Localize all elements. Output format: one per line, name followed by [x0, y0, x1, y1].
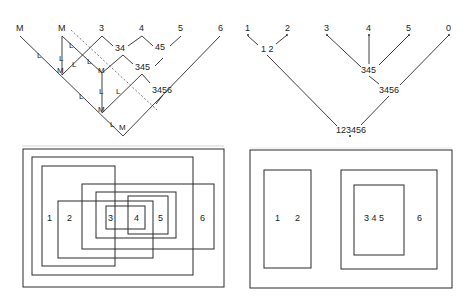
tree-edge	[361, 96, 389, 125]
edge-label: L	[116, 87, 121, 96]
set-box	[42, 166, 115, 266]
tree-edge	[170, 36, 181, 46]
edge-label: L	[37, 51, 42, 60]
leaf-label: 1	[245, 23, 250, 33]
edge-label: L	[99, 87, 104, 96]
right-venn: 1 2 3 4 5 6	[250, 150, 452, 288]
set-label: 1	[275, 213, 280, 223]
diagram-canvas: M M 3 4 5 6 34 45 345 3456 L L L L L L L…	[0, 0, 475, 305]
tree-edge	[102, 36, 113, 46]
set-label: 1	[47, 213, 52, 223]
tree-edge	[400, 35, 449, 85]
tree-edge	[369, 76, 379, 84]
right-tree: 1 2 3 4 5 0 1 2 345 3456 123456	[245, 23, 451, 137]
tree-edge	[155, 58, 163, 66]
leaf-label: M	[58, 23, 66, 33]
edge-label: L	[69, 41, 74, 50]
left-venn: 1 2 3 4 5 6	[23, 149, 224, 287]
set-label: 5	[158, 213, 163, 223]
leaf-label: 4	[139, 23, 144, 33]
merge-label: 345	[135, 62, 150, 72]
set-label: 6	[417, 213, 422, 223]
merge-label: 345	[361, 65, 376, 75]
left-tree: M M 3 4 5 6 34 45 345 3456 L L L L L L L…	[16, 23, 223, 136]
leaf-label: M	[16, 23, 24, 33]
edge-label: L	[72, 60, 77, 69]
leaf-label: 4	[366, 23, 371, 33]
tree-edge	[248, 36, 258, 45]
set-label: 4	[134, 213, 139, 223]
tree-edge	[142, 36, 153, 46]
leaf-label: 2	[285, 23, 290, 33]
tree-edge	[267, 55, 337, 126]
tree-edge	[102, 55, 123, 73]
set-label: 2	[67, 213, 72, 223]
leaf-label: 5	[406, 23, 411, 33]
merge-label: 123456	[336, 125, 366, 135]
merge-label: 1 2	[261, 44, 274, 54]
tree-edge	[327, 35, 361, 67]
leaf-label: 3	[324, 23, 329, 33]
tree-edge	[156, 95, 163, 104]
node-label: M	[57, 66, 64, 75]
tree-edge	[123, 55, 133, 64]
tree-edge	[128, 36, 142, 46]
merge-label: 3456	[379, 85, 399, 95]
leaf-label: 0	[446, 23, 451, 33]
tree-edge	[102, 74, 142, 113]
merge-label: 45	[155, 42, 165, 52]
tree-edge	[379, 35, 409, 65]
tree-edge	[20, 36, 123, 136]
set-label: 3 4 5	[364, 213, 384, 223]
tree-edge	[276, 35, 287, 44]
node-label: M	[98, 105, 105, 114]
edge-label: L	[79, 92, 84, 101]
edge-label: L	[59, 54, 64, 63]
leaf-label: 3	[99, 23, 104, 33]
merge-label: 3456	[152, 85, 172, 95]
set-box	[264, 170, 311, 268]
set-label: 6	[200, 213, 205, 223]
node-label: M	[98, 66, 105, 75]
edge-label: L	[110, 120, 115, 129]
set-label: 2	[295, 213, 300, 223]
edge-label: L	[87, 57, 92, 66]
set-label: 3	[108, 213, 113, 223]
tree-edge	[142, 74, 150, 83]
merge-label: 34	[115, 43, 125, 53]
node-label: M	[119, 123, 126, 132]
leaf-label: 6	[218, 23, 223, 33]
set-box	[82, 184, 214, 249]
leaf-label: 5	[178, 23, 183, 33]
